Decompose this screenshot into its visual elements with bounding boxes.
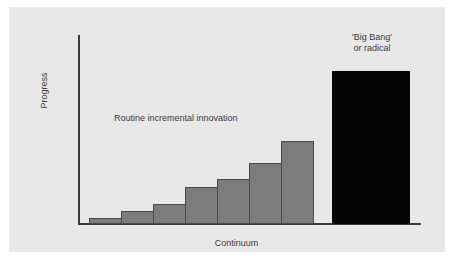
chart-panel: Progress Continuum Routine incremental i… <box>9 7 445 252</box>
bar-radical-big-bang <box>332 71 410 224</box>
chart-figure: Progress Continuum Routine incremental i… <box>0 0 455 264</box>
bar-incremental-1 <box>89 218 122 224</box>
radical-annotation-line1: 'Big Bang' <box>352 32 392 42</box>
radical-annotation-line2: or radical <box>353 43 390 53</box>
bar-incremental-5 <box>217 179 250 224</box>
bar-incremental-4 <box>185 187 218 224</box>
y-axis-label: Progress <box>39 56 50 126</box>
y-axis-line <box>78 35 80 225</box>
routine-incremental-annotation: Routine incremental innovation <box>114 113 238 124</box>
bar-incremental-3 <box>153 204 186 224</box>
bar-incremental-2 <box>121 211 154 224</box>
bar-incremental-7 <box>281 141 314 224</box>
radical-annotation: 'Big Bang' or radical <box>332 32 412 54</box>
x-axis-label: Continuum <box>9 238 455 249</box>
bar-incremental-6 <box>249 163 282 224</box>
